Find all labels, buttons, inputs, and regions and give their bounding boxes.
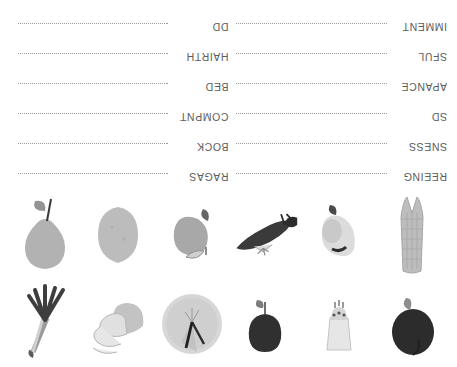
writing-line[interactable]: [18, 143, 169, 145]
word-label: SFUL: [393, 51, 447, 63]
writing-line[interactable]: [237, 113, 388, 115]
word-row: HAIRTH: [10, 33, 229, 63]
word-label: SNESS: [393, 141, 447, 153]
word-label: APANCE: [393, 81, 447, 93]
word-row: SFUL: [229, 33, 448, 63]
word-label: REEING: [393, 171, 447, 183]
writing-line[interactable]: [18, 173, 169, 175]
tomato-illustration: [231, 281, 299, 365]
worksheet-page: REEING SNESS SD APANCE SFUL: [0, 0, 457, 367]
right-column: RAGAS BOCK COMPNT BED HAIRTH: [10, 0, 229, 183]
word-label: BOCK: [175, 141, 229, 153]
word-label: SD: [393, 111, 447, 123]
writing-line[interactable]: [18, 23, 169, 25]
word-row: SD: [229, 93, 448, 123]
word-row: RAGAS: [10, 153, 229, 183]
word-row: BED: [10, 63, 229, 93]
writing-line[interactable]: [18, 83, 169, 85]
writing-line[interactable]: [237, 53, 388, 55]
turnip-illustration: [305, 281, 373, 365]
word-label: BED: [175, 81, 229, 93]
word-label: RAGAS: [175, 171, 229, 183]
apple-illustration: [158, 192, 226, 276]
writing-line[interactable]: [18, 53, 169, 55]
corn-cob-illustration: [378, 192, 446, 276]
word-columns: REEING SNESS SD APANCE SFUL: [10, 0, 447, 183]
word-row: COMPNT: [10, 93, 229, 123]
garlic-bulb-illustration: [305, 192, 373, 276]
writing-line[interactable]: [237, 143, 388, 145]
picture-row-2: [0, 189, 457, 278]
pear-illustration: [11, 192, 79, 276]
word-row: IMMENT: [229, 3, 448, 33]
picture-row-1: [0, 278, 457, 367]
chili-pepper-illustration: [231, 192, 299, 276]
word-row: SNESS: [229, 123, 448, 153]
word-label: HAIRTH: [175, 51, 229, 63]
word-row: APANCE: [229, 63, 448, 93]
word-label: COMPNT: [175, 111, 229, 123]
word-section: REEING SNESS SD APANCE SFUL: [0, 0, 457, 189]
writing-line[interactable]: [237, 83, 388, 85]
cabbage-illustration: [158, 281, 226, 365]
writing-line[interactable]: [237, 173, 388, 175]
potato-slices-illustration: [84, 281, 152, 365]
writing-line[interactable]: [18, 113, 169, 115]
left-column: REEING SNESS SD APANCE SFUL: [229, 0, 448, 183]
word-row: BOCK: [10, 123, 229, 153]
writing-line[interactable]: [237, 23, 388, 25]
word-row: REEING: [229, 153, 448, 183]
spring-onion-illustration: [11, 281, 79, 365]
word-label: DD: [175, 21, 229, 33]
word-row: DD: [10, 3, 229, 33]
eggplant-illustration: [378, 281, 446, 365]
picture-section: [0, 189, 457, 367]
word-label: IMMENT: [393, 21, 447, 33]
potato-illustration: [84, 192, 152, 276]
